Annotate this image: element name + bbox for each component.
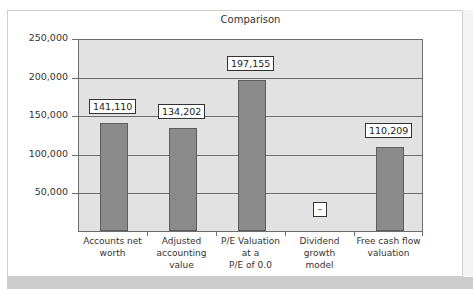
x-tick-label: Dividend growthmodel	[285, 235, 354, 271]
x-tick	[422, 232, 423, 236]
y-tick-label: 250,000	[8, 32, 68, 43]
x-tick-label: Accounts networth	[78, 235, 147, 259]
x-tick	[354, 232, 355, 236]
y-tick-label: 200,000	[8, 71, 68, 82]
x-tick-label: P/E Valuation at aP/E of 0.0	[216, 235, 285, 271]
y-tick-label: 100,000	[8, 148, 68, 159]
bar	[238, 80, 266, 231]
data-label: –	[313, 202, 327, 217]
data-label: 197,155	[227, 56, 274, 71]
data-label: 134,202	[158, 104, 205, 119]
y-tick-label: 150,000	[8, 109, 68, 120]
y-tick-label: 50,000	[8, 186, 68, 197]
gridline	[79, 78, 422, 79]
data-label: 141,110	[89, 99, 136, 114]
chart-title: Comparison	[78, 14, 423, 25]
bottom-border-band	[7, 277, 473, 289]
x-tick	[147, 232, 148, 236]
x-tick	[285, 232, 286, 236]
right-border-band	[463, 10, 473, 289]
bar	[100, 123, 128, 231]
x-tick-label: Adjustedaccounting value	[147, 235, 216, 271]
x-tick	[216, 232, 217, 236]
x-tick-label: Free cash flowvaluation	[354, 235, 423, 259]
data-label: 110,209	[365, 123, 412, 138]
bar	[376, 147, 404, 231]
bar	[169, 128, 197, 231]
